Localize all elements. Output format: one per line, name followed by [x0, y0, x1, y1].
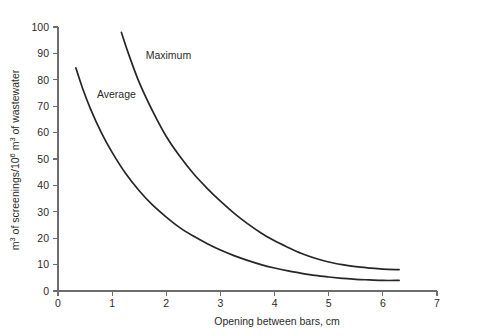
y-axis-title-part-2: of screenings/10 [9, 157, 21, 237]
curve-label-maximum: Maximum [146, 49, 192, 61]
y-axis-title-part-3: m [9, 141, 21, 153]
y-tick-label: 40 [37, 179, 49, 191]
y-tick-label: 50 [37, 153, 49, 165]
x-tick-label: 3 [218, 297, 224, 309]
y-axis-title: m3 of screenings/106 m3 of wastewater [8, 69, 21, 250]
x-tick-label: 7 [434, 297, 440, 309]
axes [58, 27, 437, 291]
curve-maximum [121, 32, 399, 269]
y-tick-label: 60 [37, 126, 49, 138]
axis-lines [58, 27, 437, 291]
x-tick-label: 2 [163, 297, 169, 309]
y-axis-ticks: 0102030405060708090100 [31, 21, 58, 297]
y-tick-label: 100 [31, 21, 49, 33]
y-axis-title-part-1: m [9, 241, 21, 250]
y-axis-title-part-4: of wastewater [9, 69, 21, 137]
y-tick-label: 0 [43, 285, 49, 297]
x-axis-ticks: 01234567 [55, 291, 440, 309]
x-tick-label: 1 [109, 297, 115, 309]
screenings-vs-bar-opening-chart: 0102030405060708090100 01234567 MaximumA… [0, 0, 497, 336]
x-axis-title: Opening between bars, cm [214, 315, 340, 327]
y-tick-label: 70 [37, 100, 49, 112]
y-tick-label: 20 [37, 232, 49, 244]
x-tick-label: 4 [272, 297, 278, 309]
curve-label-average: Average [97, 88, 136, 100]
x-tick-label: 6 [380, 297, 386, 309]
data-curves [76, 32, 399, 280]
y-tick-label: 90 [37, 47, 49, 59]
x-tick-label: 5 [326, 297, 332, 309]
y-axis-title-group: m3 of screenings/106 m3 of wastewater [8, 69, 21, 250]
chart-page: 0102030405060708090100 01234567 MaximumA… [0, 0, 497, 336]
y-tick-label: 10 [37, 258, 49, 270]
y-tick-label: 30 [37, 206, 49, 218]
y-tick-label: 80 [37, 74, 49, 86]
x-tick-label: 0 [55, 297, 61, 309]
